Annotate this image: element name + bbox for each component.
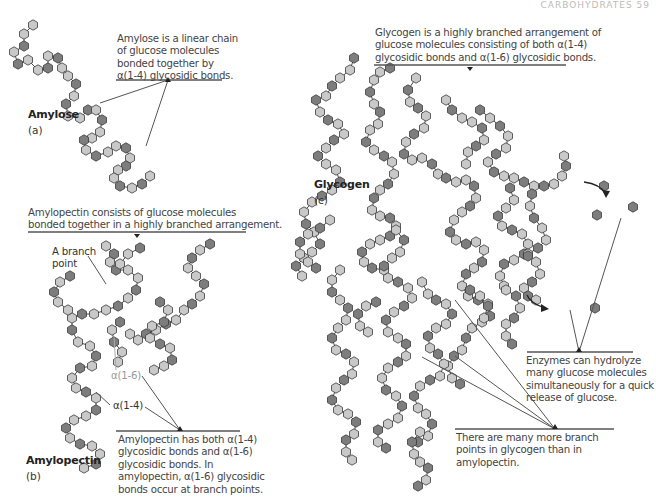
glucose-unit <box>110 173 119 183</box>
glucose-unit <box>462 333 471 343</box>
glucose-unit <box>422 111 431 121</box>
glucose-unit <box>424 331 433 341</box>
glucose-unit <box>466 285 475 295</box>
caption-line: many glucose molecules <box>526 367 654 379</box>
glucose-unit <box>532 257 541 267</box>
glucose-unit <box>348 455 357 465</box>
glucose-unit <box>302 219 311 229</box>
glucose-unit <box>92 105 101 115</box>
glucose-unit <box>490 167 499 177</box>
glucose-unit <box>118 347 127 357</box>
glucose-unit <box>300 207 309 217</box>
glucose-unit <box>296 237 305 247</box>
glucose-unit <box>342 435 351 445</box>
glucose-unit <box>82 387 91 397</box>
glucose-unit <box>330 135 339 145</box>
caption-line: points in glycogen than in <box>456 444 599 456</box>
glucose-unit <box>442 95 451 105</box>
glucose-unit <box>476 291 485 301</box>
glucose-unit <box>70 415 79 425</box>
glucose-unit <box>336 295 345 305</box>
glucose-unit <box>526 201 535 211</box>
glucose-unit <box>510 173 519 183</box>
glucose-unit <box>550 179 559 189</box>
glucose-unit <box>446 227 455 237</box>
glucose-unit <box>452 235 461 245</box>
amylopectin-bottom-caption: Amylopectin has both α(1-4) glycosidic b… <box>118 434 265 496</box>
glucose-unit <box>62 423 71 433</box>
glucose-unit <box>384 327 393 337</box>
glucose-unit <box>428 419 437 429</box>
glucose-unit <box>402 339 411 349</box>
caption-line: glycosidic bonds and α(1-6) <box>118 446 265 458</box>
glucose-unit <box>374 425 383 435</box>
glucose-unit <box>156 297 165 307</box>
glucose-unit <box>64 71 73 81</box>
glucose-unit <box>416 427 425 437</box>
glucose-unit <box>88 441 97 451</box>
glucose-unit <box>524 239 533 249</box>
alpha-1-4-label: α(1-4) <box>113 400 143 412</box>
glucose-unit <box>392 225 401 235</box>
glucose-unit <box>494 211 503 221</box>
glucose-unit <box>292 261 301 271</box>
label-line: A branch <box>52 246 96 258</box>
glucose-unit <box>500 171 509 181</box>
amylose-sublabel: (a) <box>28 124 43 136</box>
glucose-unit <box>462 159 471 169</box>
glucose-unit <box>328 81 337 91</box>
glycogen-sublabel: (c) <box>314 194 328 206</box>
glucose-unit <box>34 65 43 75</box>
glucose-unit <box>458 207 467 217</box>
glucose-unit <box>502 285 511 295</box>
glucose-unit <box>462 239 471 249</box>
glucose-unit <box>376 211 385 221</box>
glucose-unit <box>472 193 481 203</box>
glucose-unit <box>44 51 53 61</box>
glucose-unit <box>146 333 155 343</box>
glucose-unit <box>478 123 487 133</box>
glucose-unit <box>332 165 341 175</box>
glucose-unit <box>350 53 359 63</box>
glucose-unit <box>98 115 107 125</box>
glucose-unit <box>442 173 451 183</box>
glucose-unit <box>166 343 175 353</box>
glucose-unit <box>629 202 638 212</box>
glucose-unit <box>334 405 343 415</box>
glucose-unit <box>24 55 33 65</box>
glucose-unit <box>88 361 97 371</box>
glucose-unit <box>74 337 83 347</box>
glucose-unit <box>150 365 159 375</box>
glucose-unit <box>352 417 361 427</box>
glucose-unit <box>402 137 411 147</box>
glucose-unit <box>342 349 351 359</box>
glucose-unit <box>126 329 135 339</box>
branch-point-label: A branch point <box>52 246 96 270</box>
glucose-unit <box>448 309 457 319</box>
glucose-unit <box>436 371 445 381</box>
glucose-unit <box>410 129 419 139</box>
glucose-unit <box>328 333 337 343</box>
glucose-unit <box>468 117 477 127</box>
glucose-unit <box>350 357 359 367</box>
glucose-unit <box>366 125 375 135</box>
glucose-unit <box>342 315 351 325</box>
caption-line: glucose molecules consisting of both α(1… <box>375 39 601 51</box>
glucose-unit <box>400 235 409 245</box>
glucose-unit <box>78 309 87 319</box>
glucose-unit <box>562 161 571 171</box>
glucose-unit <box>502 331 511 341</box>
glucose-unit <box>496 271 505 281</box>
glucose-unit <box>362 301 371 311</box>
caption-line: Amylopectin consists of glucose molecule… <box>28 207 282 219</box>
glucose-unit <box>304 229 313 239</box>
glucose-unit <box>44 63 53 73</box>
glucose-unit <box>160 317 169 327</box>
amylopectin-sublabel: (b) <box>26 470 41 482</box>
glucose-unit <box>364 327 373 337</box>
glucose-unit <box>376 67 385 77</box>
glucose-unit <box>426 375 435 385</box>
glucose-unit <box>92 405 101 415</box>
caption-line: glycosidic bonds. In <box>118 459 265 471</box>
glucose-unit <box>394 413 403 423</box>
